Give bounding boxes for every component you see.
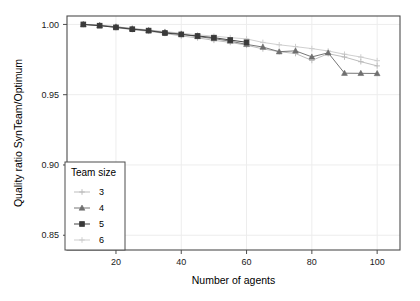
legend-label-4: 4 (99, 203, 104, 213)
data-point-square (80, 222, 85, 227)
legend-label-5: 5 (99, 219, 104, 229)
x-tick-label: 60 (242, 257, 252, 267)
data-point-square (146, 28, 151, 33)
data-point-square (244, 40, 249, 45)
x-tick-label: 40 (176, 257, 186, 267)
y-tick-label: 0.90 (41, 160, 59, 170)
chart-figure: 204060801000.850.900.951.00Number of age… (0, 0, 420, 301)
x-tick-label: 20 (111, 257, 121, 267)
y-tick-label: 0.85 (41, 230, 59, 240)
y-axis-title: Quality ratio SynTeam/Optimum (12, 59, 24, 207)
data-point-square (228, 38, 233, 43)
data-point-square (212, 35, 217, 40)
data-point-square (114, 25, 119, 30)
y-tick-label: 1.00 (41, 20, 59, 30)
legend-label-3: 3 (99, 187, 104, 197)
legend-label-6: 6 (99, 235, 104, 245)
y-tick-label: 0.95 (41, 90, 59, 100)
data-point-square (163, 31, 168, 36)
x-tick-label: 100 (370, 257, 385, 267)
line-chart: 204060801000.850.900.951.00Number of age… (0, 0, 420, 301)
legend-title: Team size (71, 167, 116, 178)
x-tick-label: 80 (307, 257, 317, 267)
data-point-square (97, 23, 102, 28)
data-point-square (81, 22, 86, 27)
x-axis-title: Number of agents (192, 274, 275, 286)
data-point-square (130, 27, 135, 32)
data-point-square (195, 34, 200, 39)
data-point-square (179, 32, 184, 37)
